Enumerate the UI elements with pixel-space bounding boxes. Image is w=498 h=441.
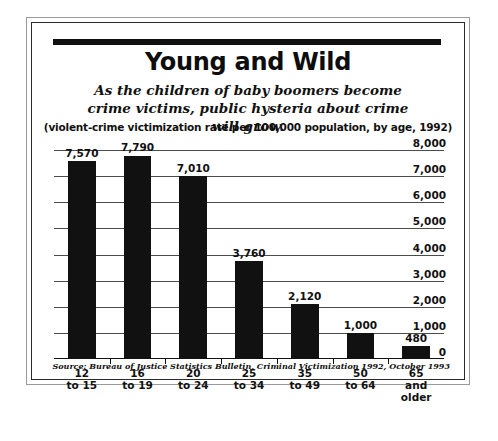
bar [235, 261, 263, 359]
gridline [54, 228, 444, 229]
x-axis-baseline [54, 358, 444, 360]
x-axis-category-label: 65 and older [401, 367, 432, 403]
y-axis-tick-label: 6,000 [413, 189, 446, 202]
figure-outer-frame: Young and Wild As the children of baby b… [26, 17, 470, 385]
bar [68, 161, 96, 359]
bar-value-label: 7,790 [121, 141, 154, 155]
y-axis-tick-label: 3,000 [413, 268, 446, 281]
title-rule [53, 39, 441, 45]
gridline [54, 202, 444, 203]
y-axis-tick-label: 1,000 [413, 320, 446, 333]
source-note: Source: Bureau of Justice Statistics Bul… [52, 361, 450, 371]
bar-value-label: 480 [405, 332, 427, 346]
page-title: Young and Wild [32, 48, 464, 76]
figure-inner-frame: Young and Wild As the children of baby b… [31, 22, 465, 380]
y-axis-tick-label: 8,000 [413, 137, 446, 150]
bar-value-label: 1,000 [344, 319, 377, 333]
bar-value-label: 3,760 [232, 247, 265, 261]
gridline [54, 176, 444, 177]
y-axis-tick-label: 2,000 [413, 294, 446, 307]
bar [179, 176, 207, 359]
y-axis-tick-label: 4,000 [413, 242, 446, 255]
bar-value-label: 7,570 [65, 147, 98, 161]
bar-value-label: 2,120 [288, 290, 321, 304]
bar [291, 304, 319, 359]
gridline [54, 150, 444, 151]
bar [347, 333, 375, 359]
bar-chart-plot-area: 7,5707,7907,0103,7602,1201,000480 01,000… [54, 150, 444, 359]
y-axis-tick-label: 7,000 [413, 163, 446, 176]
bar-value-label: 7,010 [177, 162, 210, 176]
figure-units-note: (violent-crime victimization rate per 10… [32, 121, 464, 133]
y-axis-tick-label: 5,000 [413, 215, 446, 228]
bar [124, 156, 152, 360]
